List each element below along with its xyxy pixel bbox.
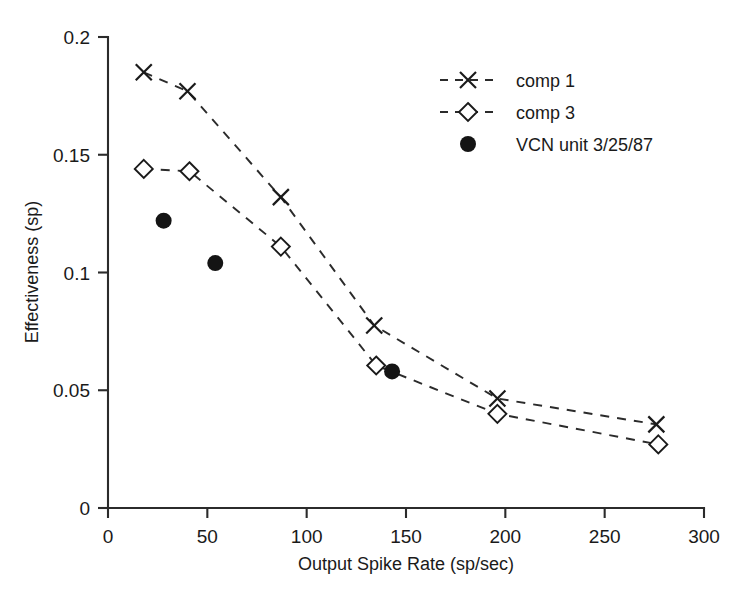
axis-y bbox=[98, 37, 108, 508]
data-point-marker bbox=[384, 363, 400, 379]
y-axis-title: Effectiveness (sp) bbox=[22, 201, 42, 344]
series-comp-3 bbox=[135, 160, 668, 454]
legend-diamond-icon bbox=[459, 103, 477, 121]
legend-label: VCN unit 3/25/87 bbox=[516, 135, 653, 155]
y-axis-ticks bbox=[98, 37, 108, 508]
y-tick-label: 0.05 bbox=[53, 380, 90, 401]
x-tick-label: 250 bbox=[589, 526, 621, 547]
chart-figure: 00.050.10.150.2 050100150200250300 Outpu… bbox=[0, 0, 744, 601]
series-line bbox=[144, 169, 659, 445]
axis-x bbox=[108, 508, 704, 518]
x-axis-ticks bbox=[108, 508, 704, 518]
legend-filled-circle-icon bbox=[460, 136, 476, 152]
data-point-marker bbox=[207, 255, 223, 271]
x-tick-label: 200 bbox=[489, 526, 521, 547]
chart-legend: comp 1comp 3VCN unit 3/25/87 bbox=[440, 71, 653, 155]
legend-item-comp-3: comp 3 bbox=[440, 103, 575, 123]
x-tick-label: 100 bbox=[291, 526, 323, 547]
data-point-marker bbox=[135, 160, 153, 178]
x-axis-tick-labels: 050100150200250300 bbox=[103, 526, 720, 547]
y-tick-label: 0.1 bbox=[64, 263, 90, 284]
series-vcn-unit-3-25-87 bbox=[156, 213, 400, 380]
y-tick-label: 0 bbox=[79, 498, 90, 519]
x-tick-label: 50 bbox=[197, 526, 218, 547]
x-axis-title: Output Spike Rate (sp/sec) bbox=[298, 554, 514, 574]
y-tick-label: 0.2 bbox=[64, 27, 90, 48]
legend-label: comp 1 bbox=[516, 71, 575, 91]
data-point-marker bbox=[488, 405, 506, 423]
series-layer bbox=[135, 64, 668, 453]
data-point-marker bbox=[367, 357, 385, 375]
x-tick-label: 0 bbox=[103, 526, 114, 547]
y-tick-label: 0.15 bbox=[53, 145, 90, 166]
x-tick-label: 150 bbox=[390, 526, 422, 547]
x-tick-label: 300 bbox=[688, 526, 720, 547]
series-comp-1 bbox=[136, 64, 665, 432]
y-axis-tick-labels: 00.050.10.150.2 bbox=[53, 27, 90, 519]
chart-canvas: 00.050.10.150.2 050100150200250300 Outpu… bbox=[0, 0, 744, 601]
data-point-marker bbox=[649, 435, 667, 453]
legend-label: comp 3 bbox=[516, 103, 575, 123]
legend-item-vcn-unit-3-25-87: VCN unit 3/25/87 bbox=[460, 135, 653, 155]
legend-item-comp-1: comp 1 bbox=[440, 71, 575, 91]
data-point-marker bbox=[156, 213, 172, 229]
